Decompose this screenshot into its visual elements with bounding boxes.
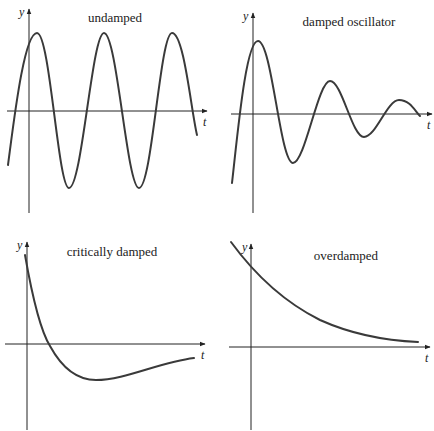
t-axis-label: t <box>201 348 205 362</box>
critically-damped-curve <box>25 255 194 380</box>
t-axis-label: t <box>427 118 431 132</box>
y-axis-label: y <box>242 9 249 23</box>
figure: y t undamped y t damped oscillator y t c… <box>0 0 434 431</box>
y-axis-label: y <box>16 238 23 252</box>
y-axis-label: y <box>241 240 248 254</box>
y-axis-label: y <box>18 5 25 19</box>
panel-overdamped: y t overdamped <box>229 240 430 430</box>
panel-title: overdamped <box>314 248 379 263</box>
panel-critically-damped: y t critically damped <box>5 238 205 430</box>
panel-title: damped oscillator <box>303 14 396 29</box>
panel-damped-oscillator: y t damped oscillator <box>231 9 432 213</box>
panel-undamped: y t undamped <box>7 5 207 213</box>
damped-oscillator-curve <box>232 41 420 183</box>
panel-title: critically damped <box>67 244 158 259</box>
panel-title: undamped <box>88 10 143 25</box>
t-axis-label: t <box>425 351 429 365</box>
t-axis-label: t <box>203 115 207 129</box>
